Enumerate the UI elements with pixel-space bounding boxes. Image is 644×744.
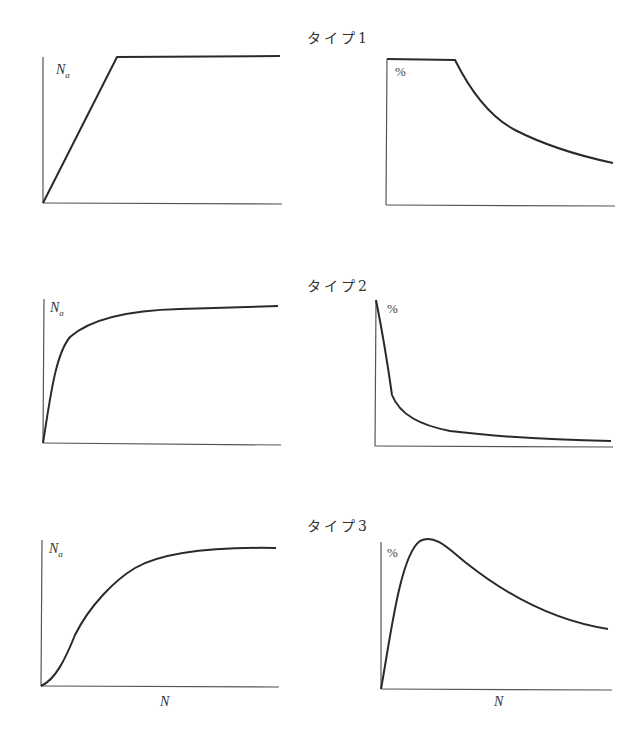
x-axis xyxy=(43,443,281,445)
chart-type1-pct xyxy=(386,59,615,206)
type2-title: タイプ2 xyxy=(307,275,370,295)
y-axis xyxy=(386,59,387,205)
x-axis xyxy=(43,203,282,204)
curve xyxy=(381,539,608,689)
type3-pct-xlabel: N xyxy=(494,694,503,710)
type3-title: タイプ3 xyxy=(307,515,370,535)
type3-pct-ylabel: % xyxy=(387,545,398,561)
type2-na-ylabel: Na xyxy=(50,300,64,318)
curve xyxy=(43,306,278,443)
chart-type1-na xyxy=(43,56,282,204)
y-axis xyxy=(43,299,44,443)
type2-pct-ylabel: % xyxy=(387,301,398,317)
chart-type3-na xyxy=(41,540,279,687)
curve xyxy=(43,56,280,203)
type3-na-ylabel: Na xyxy=(49,541,63,559)
y-axis xyxy=(41,540,42,686)
type1-title: タイプ1 xyxy=(307,27,370,47)
chart-type2-na xyxy=(43,299,281,445)
curve xyxy=(376,300,611,441)
x-axis xyxy=(381,689,612,690)
x-axis xyxy=(386,205,615,206)
type1-pct-ylabel: % xyxy=(395,64,406,80)
figure-canvas xyxy=(0,0,644,744)
y-axis xyxy=(375,300,376,446)
type1-na-ylabel: Na xyxy=(56,62,70,80)
type3-na-xlabel: N xyxy=(160,694,169,710)
curve xyxy=(41,548,276,686)
x-axis xyxy=(375,446,613,447)
chart-type3-pct xyxy=(381,539,612,690)
x-axis xyxy=(41,686,279,687)
chart-type2-pct xyxy=(375,300,613,447)
curve xyxy=(387,59,613,163)
